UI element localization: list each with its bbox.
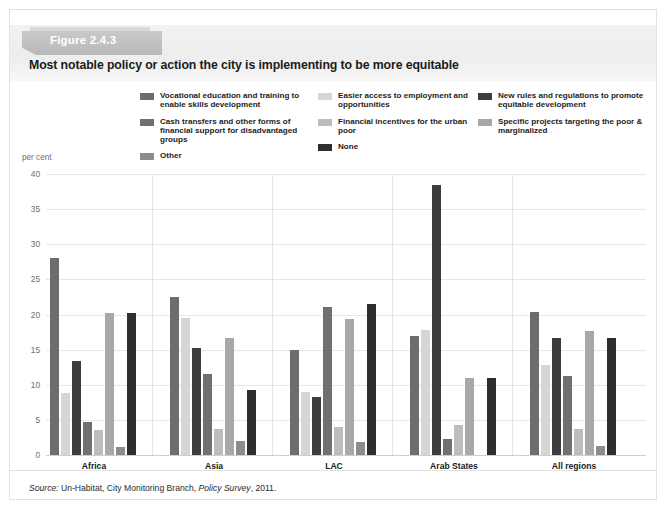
bar[interactable] — [596, 446, 605, 455]
legend-item[interactable]: None — [318, 142, 468, 151]
y-axis-tick-label: 25 — [18, 274, 40, 284]
bar[interactable] — [465, 378, 474, 455]
chart-legend: Vocational education and training to ena… — [140, 91, 660, 159]
source-body: Un-Habitat, City Monitoring Branch, — [59, 483, 199, 493]
legend-swatch-icon — [140, 119, 154, 126]
legend-label: New rules and regulations to promote equ… — [498, 91, 648, 110]
source-prefix: Source: — [29, 483, 59, 493]
x-axis-group-label: Asia — [160, 461, 268, 471]
x-axis-group-label: Africa — [40, 461, 148, 471]
bar[interactable] — [432, 185, 441, 455]
y-axis-tick-label: 15 — [18, 345, 40, 355]
legend-label: Cash transfers and other forms of financ… — [160, 117, 315, 145]
bar[interactable] — [301, 392, 310, 455]
legend-label: Easier access to employment and opportun… — [338, 91, 468, 110]
legend-label: None — [338, 142, 468, 151]
y-axis-tick-label: 5 — [18, 415, 40, 425]
figure-title: Most notable policy or action the city i… — [29, 58, 629, 72]
bar[interactable] — [541, 365, 550, 455]
bar[interactable] — [454, 425, 463, 455]
legend-label: Other — [160, 151, 315, 160]
legend-column-1: Vocational education and training to ena… — [140, 91, 315, 168]
x-axis-baseline — [46, 455, 646, 456]
legend-swatch-icon — [318, 144, 332, 151]
legend-swatch-icon — [140, 153, 154, 160]
legend-swatch-icon — [318, 93, 332, 100]
legend-label: Vocational education and training to ena… — [160, 91, 315, 110]
legend-item[interactable]: Easier access to employment and opportun… — [318, 91, 468, 110]
y-axis-tick-label: 20 — [18, 310, 40, 320]
bar[interactable] — [356, 442, 365, 455]
bar[interactable] — [94, 430, 103, 455]
group-separator — [512, 174, 513, 455]
bar[interactable] — [312, 397, 321, 455]
bar[interactable] — [72, 361, 81, 455]
bar[interactable] — [552, 338, 561, 455]
x-axis-group-label: Arab States — [400, 461, 508, 471]
legend-item[interactable]: Specific projects targeting the poor & m… — [478, 117, 648, 136]
bar[interactable] — [530, 312, 539, 455]
bar[interactable] — [574, 429, 583, 455]
bar-group-lac — [290, 174, 378, 455]
bar[interactable] — [127, 313, 136, 455]
legend-swatch-icon — [318, 119, 332, 126]
bar[interactable] — [61, 393, 70, 455]
bar[interactable] — [334, 427, 343, 455]
bar[interactable] — [214, 429, 223, 455]
bar[interactable] — [367, 304, 376, 455]
source-year: , 2011. — [251, 483, 277, 493]
figure-number-label: Figure 2.4.3 — [50, 34, 116, 46]
figure-panel: Figure 2.4.3 Most notable policy or acti… — [0, 0, 666, 509]
x-axis-group-label: LAC — [280, 461, 388, 471]
legend-swatch-icon — [478, 119, 492, 126]
y-axis-tick-label: 40 — [18, 169, 40, 179]
legend-swatch-icon — [478, 93, 492, 100]
bar[interactable] — [443, 439, 452, 455]
bar[interactable] — [50, 258, 59, 455]
bar[interactable] — [116, 447, 125, 455]
group-separator — [272, 174, 273, 455]
bar[interactable] — [585, 331, 594, 455]
source-note: Source: Un-Habitat, City Monitoring Bran… — [29, 483, 276, 493]
y-axis-tick-label: 30 — [18, 239, 40, 249]
y-axis-tick-label: 35 — [18, 204, 40, 214]
bar[interactable] — [105, 313, 114, 455]
x-axis-group-label: All regions — [520, 461, 628, 471]
legend-item[interactable]: New rules and regulations to promote equ… — [478, 91, 648, 110]
legend-item[interactable]: Other — [140, 151, 315, 160]
legend-label: Financial incentives for the urban poor — [338, 117, 468, 136]
legend-column-3: New rules and regulations to promote equ… — [478, 91, 648, 142]
group-separator — [152, 174, 153, 455]
bar[interactable] — [170, 297, 179, 455]
source-publication: Policy Survey — [199, 483, 251, 493]
bar[interactable] — [323, 307, 332, 455]
bar[interactable] — [192, 348, 201, 455]
bar[interactable] — [487, 378, 496, 455]
bar-group-asia — [170, 174, 258, 455]
bar[interactable] — [83, 422, 92, 455]
bar[interactable] — [236, 441, 245, 455]
y-axis-tick-label: 10 — [18, 380, 40, 390]
y-axis-unit-label: per cent — [22, 153, 52, 162]
plot-area — [46, 174, 646, 455]
legend-swatch-icon — [140, 93, 154, 100]
bar[interactable] — [563, 376, 572, 455]
bar[interactable] — [421, 330, 430, 455]
legend-column-2: Easier access to employment and opportun… — [318, 91, 468, 158]
bar[interactable] — [225, 338, 234, 455]
bar[interactable] — [607, 338, 616, 455]
legend-item[interactable]: Financial incentives for the urban poor — [318, 117, 468, 136]
legend-item[interactable]: Cash transfers and other forms of financ… — [140, 117, 315, 145]
group-separator — [392, 174, 393, 455]
bar[interactable] — [203, 374, 212, 455]
y-axis-tick-label: 0 — [18, 450, 40, 460]
bar[interactable] — [410, 336, 419, 455]
bar[interactable] — [247, 390, 256, 455]
legend-label: Specific projects targeting the poor & m… — [498, 117, 648, 136]
bar-group-arab-states — [410, 174, 498, 455]
bar[interactable] — [181, 318, 190, 455]
bar[interactable] — [290, 350, 299, 455]
legend-item[interactable]: Vocational education and training to ena… — [140, 91, 315, 110]
bar[interactable] — [345, 319, 354, 455]
bar-group-all-regions — [530, 174, 618, 455]
